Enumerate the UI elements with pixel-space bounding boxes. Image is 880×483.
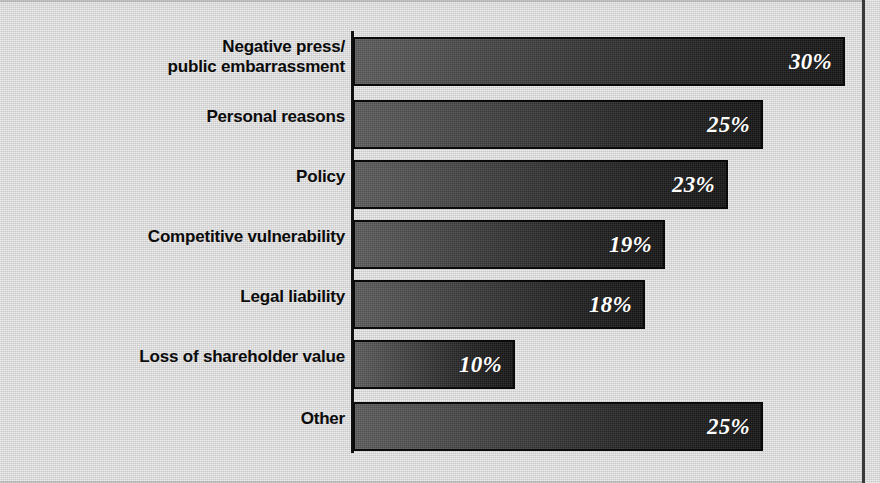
bar[interactable]: 25% [353,100,763,149]
bar-value-label: 23% [672,172,715,198]
bar-row: Policy 23% [0,151,862,211]
bar-category-label: Loss of shareholder value [45,347,345,367]
bar-chart-figure: Negative press/ public embarrassment 30%… [0,0,880,483]
bar-row: Legal liability 18% [0,271,862,331]
bar-value-label: 10% [459,352,502,378]
bar-track: 18% [353,280,645,329]
bar[interactable]: 10% [353,340,515,389]
bar[interactable]: 23% [353,160,728,209]
bar-value-label: 19% [609,232,652,258]
figure-border-right [862,0,865,483]
bar-row: Competitive vulnerability 19% [0,211,862,271]
bar-category-label: Negative press/ public embarrassment [45,37,345,77]
bar-row: Negative press/ public embarrassment 30% [0,31,862,91]
plot-area: Negative press/ public embarrassment 30%… [0,0,862,483]
bar-value-label: 30% [789,49,832,75]
bar-track: 25% [353,100,763,149]
bar-category-label: Policy [45,167,345,187]
bar-track: 10% [353,340,515,389]
bar-row: Personal reasons 25% [0,91,862,151]
bar-row: Loss of shareholder value 10% [0,331,862,391]
bar-row: Other 25% [0,391,862,453]
bar-category-label: Competitive vulnerability [45,227,345,247]
bar-track: 25% [353,402,763,451]
bar-value-label: 25% [707,112,750,138]
bar-category-label: Other [45,409,345,429]
bar[interactable]: 19% [353,220,665,269]
bar-track: 23% [353,160,728,209]
bar-value-label: 25% [707,414,750,440]
bar-track: 30% [353,37,845,86]
bar[interactable]: 18% [353,280,645,329]
bar-track: 19% [353,220,665,269]
bar[interactable]: 25% [353,402,763,451]
bar[interactable]: 30% [353,37,845,86]
bar-category-label: Personal reasons [45,107,345,127]
bar-value-label: 18% [589,292,632,318]
bar-category-label: Legal liability [45,287,345,307]
